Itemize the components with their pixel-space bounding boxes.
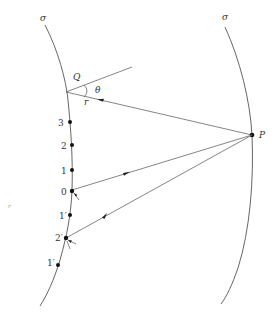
point-0-label: 0 (61, 187, 67, 197)
stray-mark: r (8, 202, 12, 209)
point-0 (70, 189, 74, 193)
p-to-q-line (66, 92, 252, 135)
p-to-0-line (72, 135, 252, 190)
right-sigma-label: σ (222, 12, 229, 22)
point-1prime-lower (56, 263, 60, 267)
point-0-arrow-icon (74, 193, 78, 197)
p-label: P (258, 130, 266, 140)
diagram-canvas: σ σ θ Q r P 3 2 1 0 1′ 2′ 1′ r (0, 0, 276, 316)
theta-label: θ (95, 85, 101, 95)
point-3-label: 3 (58, 118, 64, 128)
point-1prime-lower-label: 1′ (47, 258, 55, 268)
p-to-2prime-line (66, 135, 252, 238)
point-1prime-upper-label: 1′ (59, 211, 67, 221)
r-label: r (84, 97, 89, 107)
point-1prime-upper (68, 213, 72, 217)
point-1-label: 1 (61, 166, 67, 176)
left-sigma-label: σ (40, 13, 47, 23)
point-2prime-label: 2′ (55, 233, 63, 243)
point-1 (70, 168, 74, 172)
p-to-0-arrow-icon (123, 172, 130, 176)
point-2prime (64, 236, 68, 240)
p-to-q-arrow-icon (97, 99, 104, 102)
theta-angle-arc (84, 85, 87, 97)
point-2-label: 2 (61, 141, 67, 151)
left-surface-curve (40, 25, 72, 306)
point-3 (68, 120, 72, 124)
q-label: Q (73, 72, 81, 82)
right-surface-curve (221, 27, 252, 304)
point-2 (70, 143, 74, 147)
point-2prime-tick-b (67, 241, 70, 249)
